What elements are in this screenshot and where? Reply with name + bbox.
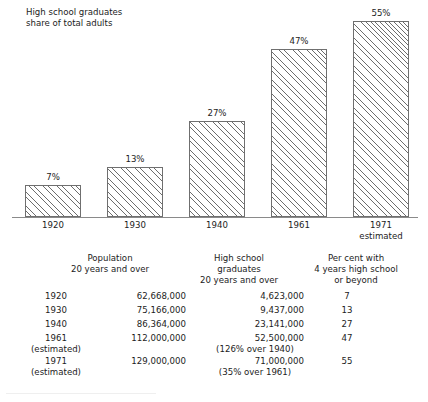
bar-1930 [107, 167, 163, 217]
cell-population: 75,166,000 [100, 305, 186, 316]
cell-year-note: (estimated) [14, 344, 98, 355]
bar-tick-label-1920: 1920 [42, 220, 64, 230]
cell-population: 62,668,000 [100, 291, 186, 302]
bar-1961 [271, 49, 327, 217]
cell-year: 1961(estimated) [14, 333, 98, 355]
cell-year: 1940 [14, 319, 98, 330]
cell-graduates-note: (126% over 1940) [206, 344, 304, 355]
cell-year: 1971(estimated) [14, 356, 98, 378]
bar-1940 [189, 121, 245, 217]
table-header-graduates: High school graduates 20 years and over [180, 253, 298, 287]
cell-graduates: 9,437,000 [206, 305, 304, 316]
bar-tick-label-1971: 1971 [370, 220, 392, 230]
chart-baseline-axis [12, 217, 418, 218]
bar-value-1940: 27% [189, 108, 245, 118]
data-table: Population 20 years and over High school… [0, 253, 428, 379]
table-header-row: Population 20 years and over High school… [0, 253, 428, 291]
bar-1971 [353, 21, 409, 217]
bar-tick-label-1930: 1930 [124, 220, 146, 230]
bar-value-1920: 7% [25, 172, 81, 182]
bottom-rule [6, 393, 156, 394]
cell-year-value: 1961 [45, 333, 67, 343]
cell-population: 112,000,000 [100, 333, 186, 344]
cell-percent: 55 [316, 356, 378, 367]
figure-high-school-graduates: High school graduates share of total adu… [0, 0, 428, 402]
cell-graduates: 23,141,000 [206, 319, 304, 330]
cell-year: 1920 [14, 291, 98, 302]
bar-tick-1930: 1930 [103, 220, 167, 231]
cell-population: 86,364,000 [100, 319, 186, 330]
cell-graduates-value: 52,500,000 [255, 333, 304, 343]
cell-population: 129,000,000 [100, 356, 186, 367]
cell-year: 1930 [14, 305, 98, 316]
bar-chart: 7% 1920 13% 1930 27% 1940 47% 1961 55% 1… [0, 0, 428, 225]
bar-tick-1961: 1961 [267, 220, 331, 231]
cell-graduates: 4,623,000 [206, 291, 304, 302]
cell-percent: 7 [316, 291, 378, 302]
cell-percent: 13 [316, 305, 378, 316]
cell-graduates-value: 71,000,000 [255, 356, 304, 366]
bar-tick-1971: 1971estimated [349, 220, 413, 241]
cell-graduates: 52,500,000(126% over 1940) [206, 333, 304, 355]
table-row: 1920 62,668,000 4,623,000 7 [0, 291, 428, 305]
bar-tick-1940: 1940 [185, 220, 249, 231]
cell-graduates: 71,000,000(35% over 1961) [206, 356, 304, 378]
bar-1920 [25, 185, 81, 217]
table-header-percent: Per cent with 4 years high school or bey… [296, 253, 416, 287]
table-row: 1971(estimated) 129,000,000 71,000,000(3… [0, 356, 428, 379]
table-header-population: Population 20 years and over [47, 253, 173, 275]
table-row: 1940 86,364,000 23,141,000 27 [0, 319, 428, 333]
bar-value-1930: 13% [107, 154, 163, 164]
bar-tick-1920: 1920 [21, 220, 85, 231]
bar-value-1971: 55% [353, 8, 409, 18]
bar-tick-label-1961: 1961 [288, 220, 310, 230]
cell-percent: 47 [316, 333, 378, 344]
table-row: 1930 75,166,000 9,437,000 13 [0, 305, 428, 319]
table-row: 1961(estimated) 112,000,000 52,500,000(1… [0, 333, 428, 356]
cell-year-note: (estimated) [14, 367, 98, 378]
bar-tick-label-1940: 1940 [206, 220, 228, 230]
cell-percent: 27 [316, 319, 378, 330]
bar-tick-sublabel-1971: estimated [349, 231, 413, 242]
bar-value-1961: 47% [271, 36, 327, 46]
cell-year-value: 1971 [45, 356, 67, 366]
cell-graduates-note: (35% over 1961) [206, 367, 304, 378]
